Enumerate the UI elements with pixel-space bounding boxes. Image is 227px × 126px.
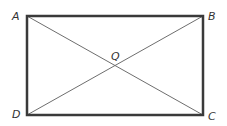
rectangle-diagram: A B C D Q [0,0,227,126]
vertex-label-a: A [11,10,20,23]
intersection-label-q: Q [111,50,120,63]
vertex-label-b: B [208,10,216,23]
vertex-label-d: D [12,108,20,121]
vertex-label-c: C [208,110,216,123]
